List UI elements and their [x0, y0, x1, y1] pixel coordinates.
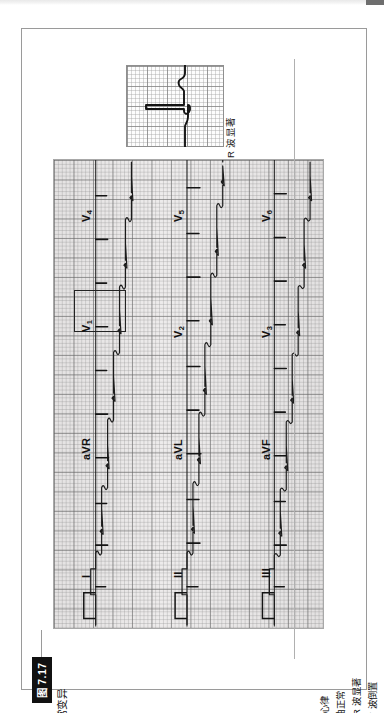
lead-label-V1-text: V — [80, 324, 92, 332]
annotation-item-4: Ⅲ导联 T 波倒置 — [364, 627, 379, 713]
figure-caption: 可能为正常变异 — [52, 629, 70, 713]
scan-edge-mark — [366, 0, 384, 5]
lead-label-V2-text: V — [172, 330, 184, 338]
annotation-item-2-text-wrap: 心电轴正常 — [332, 629, 347, 713]
lead-label-V5-sub: 5 — [177, 210, 186, 214]
lead-label-V6-sub: 6 — [265, 210, 274, 214]
annotation-item-1-text: 窦性心律 — [317, 695, 331, 713]
annotations-legend: 标注 窦性心律 心电轴正常 — [298, 627, 384, 713]
v1-inset-label: V₁ 导联 R 波显著 — [220, 51, 240, 163]
lead-label-V5-text: V — [172, 214, 184, 222]
lead-label-V5: V5 — [172, 210, 186, 222]
lead-label-V4-sub: 4 — [85, 210, 94, 214]
page-canvas: V₁ 导联 R 波显著 — [0, 0, 384, 713]
annotation-item-3-text: V₁ 导联 R 波显著 — [349, 677, 363, 713]
annotation-item-1: 窦性心律 — [316, 627, 331, 713]
figure-number-tag: 图 7.17 — [32, 657, 52, 703]
ecg-panel: I aVR V1 V4 II aVL V2 V5 — [53, 159, 324, 629]
lead-label-aVF: aVF — [260, 439, 272, 460]
figure-caption-text: 可能为正常变异 — [54, 688, 69, 713]
lead-label-V4: V4 — [80, 210, 94, 222]
lead-label-III: III — [260, 568, 272, 578]
scan-top-strip — [0, 0, 384, 5]
lead-label-I-text: I — [80, 575, 92, 578]
lead-label-aVL: aVL — [172, 439, 184, 460]
figure-number-rule — [41, 630, 42, 658]
lead-label-V6: V6 — [260, 210, 274, 222]
lead-label-V3: V3 — [260, 326, 274, 338]
inset-ecg-trace — [126, 65, 224, 147]
lead-label-V4-text: V — [80, 214, 92, 222]
annotations-title: 标注 — [299, 627, 315, 713]
annotations-items: 窦性心律 心电轴正常 V₁ 导联 R 波显著 — [316, 627, 384, 713]
lead-label-V2-sub: 2 — [177, 326, 186, 330]
lead-label-V1: V1 — [80, 320, 94, 332]
v1-inset-panel — [126, 65, 224, 147]
lead-label-V6-text: V — [260, 214, 272, 222]
lead-label-V3-sub: 3 — [265, 326, 274, 330]
lead-label-aVR-text: aVR — [80, 438, 92, 460]
annotation-item-2-text: 心电轴正常 — [333, 691, 347, 713]
annotation-item-3-text-wrap: V₁ 导联 R 波显著 — [348, 629, 363, 713]
annotation-item-2: 心电轴正常 — [332, 627, 347, 713]
annotation-item-1-text-wrap: 窦性心律 — [316, 629, 331, 713]
lead-label-II-text: II — [172, 571, 184, 578]
lead-label-V2: V2 — [172, 326, 186, 338]
figure-number-text: 图 7.17 — [35, 662, 50, 698]
figure-frame: V₁ 导联 R 波显著 — [21, 28, 367, 690]
lead-label-I: I — [80, 575, 92, 578]
lead-label-aVL-text: aVL — [172, 439, 184, 460]
ecg-traces — [54, 160, 323, 627]
lead-label-aVF-text: aVF — [260, 439, 272, 460]
lead-label-III-text: III — [260, 568, 272, 578]
lead-label-II: II — [172, 571, 184, 578]
annotation-item-4-text-wrap: Ⅲ导联 T 波倒置 — [364, 629, 379, 713]
annotation-item-3: V₁ 导联 R 波显著 — [348, 627, 363, 713]
lead-label-aVR: aVR — [80, 438, 92, 460]
legend-divider — [294, 59, 295, 659]
lead-label-V3-text: V — [260, 330, 272, 338]
annotation-item-4-text: Ⅲ导联 T 波倒置 — [365, 681, 379, 713]
lead-label-V1-sub: 1 — [85, 320, 94, 324]
